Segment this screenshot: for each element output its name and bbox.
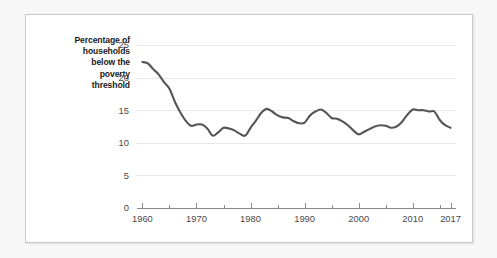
y-tick-label: 20 xyxy=(119,72,129,83)
gridlines-group xyxy=(137,46,456,176)
x-tick-label: 1980 xyxy=(240,213,261,224)
data-line-poverty-rate xyxy=(142,62,450,136)
x-tick-label: 1990 xyxy=(294,213,315,224)
screenshot-root: Percentage of households below the pover… xyxy=(0,0,497,258)
x-tick-label: 2017 xyxy=(440,213,461,224)
y-tick-label: 0 xyxy=(124,202,129,213)
x-tick-label: 2010 xyxy=(402,213,423,224)
chart-card: Percentage of households below the pover… xyxy=(25,14,473,243)
x-tick-label: 1970 xyxy=(186,213,207,224)
x-tick-label: 1960 xyxy=(132,213,153,224)
y-tick-label: 25 xyxy=(119,39,129,50)
x-axis-tick-marks xyxy=(143,203,452,209)
y-axis-tick-labels: 0510152025 xyxy=(119,39,129,213)
x-axis-tick-labels: 1960197019801990200020102017 xyxy=(132,213,461,224)
poverty-rate-line-chart: 0510152025 1960197019801990200020102017 xyxy=(26,15,474,244)
data-series-group xyxy=(142,62,450,136)
y-tick-label: 15 xyxy=(119,105,129,116)
x-tick-label: 2000 xyxy=(348,213,369,224)
y-tick-label: 10 xyxy=(119,137,129,148)
y-tick-label: 5 xyxy=(124,170,129,181)
